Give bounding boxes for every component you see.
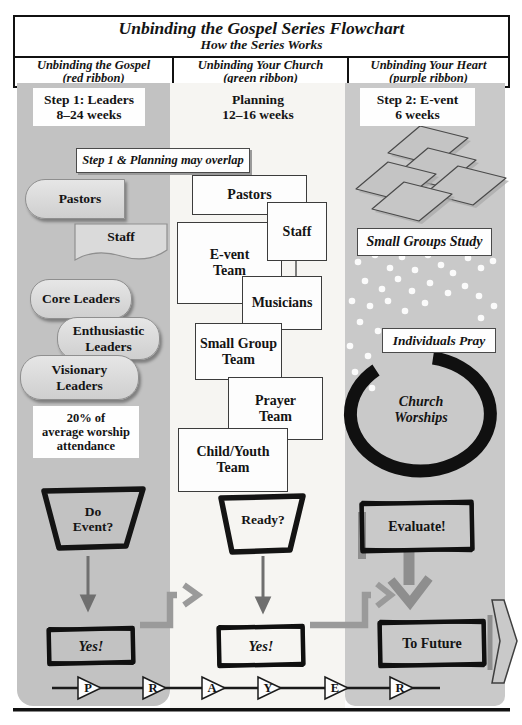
staff-box-church: Staff bbox=[267, 202, 327, 261]
timeline-letter-p: P bbox=[80, 680, 96, 696]
yes-label-church: Yes! bbox=[219, 630, 303, 662]
individuals-pray-box: Individuals Pray bbox=[382, 328, 496, 353]
small-groups-study-box: Small Groups Study bbox=[357, 228, 492, 256]
small-group-team-box: Small Group Team bbox=[195, 323, 282, 380]
down-arrow-gospel bbox=[82, 556, 94, 609]
prayer-timeline bbox=[52, 677, 440, 699]
elbow-arrow-church-to-heart bbox=[310, 584, 391, 625]
parallelogram-tiles bbox=[356, 126, 509, 224]
enthusiastic-leaders-pill: Enthusiastic Leaders bbox=[57, 317, 160, 360]
timeline-letter-r1: R bbox=[145, 680, 161, 696]
to-future-label: To Future bbox=[380, 626, 484, 662]
flowchart-page: Unbinding the Gospel Series Flowchart Ho… bbox=[0, 0, 522, 725]
evaluate-label: Evaluate! bbox=[362, 506, 472, 548]
timeline-letter-a: A bbox=[204, 680, 220, 696]
ready-label: Ready? bbox=[222, 505, 304, 535]
yes-label-gospel: Yes! bbox=[49, 631, 133, 662]
to-future-arrow-icon bbox=[492, 600, 517, 683]
church-step-heading: Planning 12–16 weeks bbox=[196, 88, 320, 126]
attendance-note: 20% of average worship attendance bbox=[33, 406, 139, 458]
core-leaders-pill: Core Leaders bbox=[30, 279, 132, 319]
elbow-arrow-gospel-to-church bbox=[140, 585, 198, 625]
gospel-step-heading: Step 1: Leaders 8–24 weeks bbox=[33, 88, 145, 126]
visionary-leaders-pill: Visionary Leaders bbox=[20, 355, 139, 400]
heart-step-heading: Step 2: E-vent 6 weeks bbox=[360, 88, 475, 126]
thick-down-arrow-heart bbox=[391, 552, 429, 603]
timeline-letter-e: E bbox=[327, 680, 343, 696]
bottom-rule bbox=[13, 708, 510, 712]
pastors-shape-gospel: Pastors bbox=[25, 179, 125, 219]
musicians-box: Musicians bbox=[242, 276, 322, 330]
do-event-label: Do Event? bbox=[52, 498, 134, 540]
timeline-letter-y: Y bbox=[260, 680, 276, 696]
overlap-note: Step 1 & Planning may overlap bbox=[76, 148, 250, 173]
timeline-letter-r2: R bbox=[392, 680, 408, 696]
child-youth-team-box: Child/Youth Team bbox=[178, 428, 288, 492]
down-arrow-church bbox=[257, 556, 269, 611]
staff-label-gospel: Staff bbox=[75, 224, 167, 250]
church-worships-label: Church Worships bbox=[376, 390, 466, 430]
